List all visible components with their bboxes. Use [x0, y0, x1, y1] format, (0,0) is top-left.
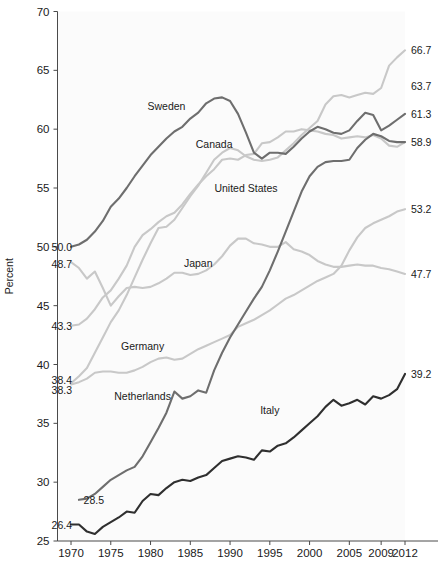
end-value-label: 58.9 [411, 136, 432, 148]
series-label-canada: Canada [196, 138, 233, 150]
start-value-label: 26.4 [52, 519, 73, 531]
y-tick-label: 25 [37, 535, 50, 547]
end-value-label: 61.3 [411, 108, 432, 120]
x-tick-label: 2000 [297, 547, 323, 559]
start-value-label: 50.0 [52, 241, 73, 253]
series-label-japan: Japan [184, 257, 213, 269]
x-tick-label: 2005 [337, 547, 363, 559]
x-tick-label: 2012 [392, 547, 418, 559]
line-chart: 25303540455055606570 1970197519801985199… [0, 0, 443, 564]
y-tick-label: 40 [37, 359, 50, 371]
end-value-label: 39.2 [411, 368, 432, 380]
y-tick-label: 60 [37, 123, 50, 135]
x-tick-label: 1975 [98, 547, 124, 559]
plot-area [58, 12, 406, 542]
x-tick-label: 1990 [217, 547, 243, 559]
x-tick-label: 1980 [138, 547, 164, 559]
y-tick-label: 50 [37, 241, 50, 253]
plot-background [58, 12, 406, 542]
y-tick-label: 55 [37, 182, 50, 194]
x-tick-label: 1995 [257, 547, 283, 559]
x-tick-label: 1985 [178, 547, 204, 559]
start-value-label: 48.7 [52, 258, 73, 270]
y-axis-title: Percent [3, 258, 15, 294]
series-label-united-states: United States [214, 182, 277, 194]
start-value-label: 28.5 [84, 494, 105, 506]
end-value-label: 66.7 [411, 44, 432, 56]
y-tick-label: 30 [37, 476, 50, 488]
series-label-germany: Germany [121, 340, 165, 352]
series-label-italy: Italy [260, 404, 280, 416]
y-tick-label: 35 [37, 417, 50, 429]
y-tick-label: 45 [37, 300, 50, 312]
series-label-netherlands: Netherlands [114, 390, 171, 402]
end-value-label: 63.7 [411, 80, 432, 92]
start-value-label: 43.3 [52, 320, 73, 332]
end-value-label: 47.7 [411, 268, 432, 280]
x-tick-label: 1970 [58, 547, 84, 559]
x-tick-label: 2009 [368, 547, 394, 559]
series-label-sweden: Sweden [147, 100, 185, 112]
y-tick-label: 65 [37, 64, 50, 76]
start-value-label: 38.3 [52, 384, 73, 396]
chart-container: 25303540455055606570 1970197519801985199… [0, 0, 443, 564]
y-tick-label: 70 [37, 6, 50, 18]
y-axis-title-text: Percent [3, 258, 15, 294]
end-value-label: 53.2 [411, 203, 432, 215]
